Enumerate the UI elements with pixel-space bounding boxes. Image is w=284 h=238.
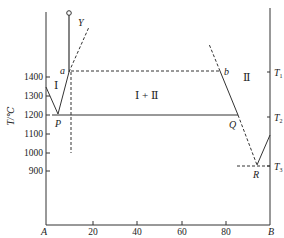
point-b-label: b	[224, 66, 229, 77]
point-R-label: R	[252, 169, 259, 180]
dashed-line-Y	[69, 27, 89, 72]
line-b-Q	[220, 71, 238, 115]
point-a-label: a	[60, 65, 65, 76]
region-I-label: Ⅰ	[54, 79, 58, 91]
y-tick-1100: 1100	[24, 129, 43, 139]
x-axis-right-label: B	[268, 226, 274, 237]
dashed-line-Q-R	[238, 115, 257, 165]
point-Q-label: Q	[229, 119, 237, 130]
point-Y-label: Y	[78, 17, 85, 28]
phase-diagram: 1400 1300 1200 1100 1000 900 T/℃ A 20 40…	[0, 0, 284, 238]
y-tick-1300: 1300	[24, 91, 43, 101]
x-tick-80: 80	[221, 227, 231, 237]
dashed-line-above-b	[209, 44, 220, 71]
x-tick-20: 20	[88, 227, 98, 237]
right-tick-T3: T3	[274, 161, 283, 173]
right-tick-T1: T1	[274, 67, 283, 79]
region-II-label: Ⅱ	[243, 71, 250, 83]
point-P-label: P	[54, 118, 61, 129]
x-tick-40: 40	[132, 227, 142, 237]
right-tick-T2: T2	[274, 112, 283, 124]
x-tick-60: 60	[177, 227, 187, 237]
open-circle-marker	[67, 11, 72, 16]
y-tick-1200: 1200	[24, 110, 43, 120]
x-ticks	[93, 221, 226, 225]
region-I-II-label: Ⅰ + Ⅱ	[135, 89, 159, 101]
y-axis-title: T/℃	[6, 106, 16, 125]
y-tick-900: 900	[29, 166, 44, 176]
line-R-B	[257, 135, 270, 165]
y-tick-1000: 1000	[24, 148, 43, 158]
x-axis-left-label: A	[40, 226, 48, 237]
y-tick-1400: 1400	[24, 72, 43, 82]
